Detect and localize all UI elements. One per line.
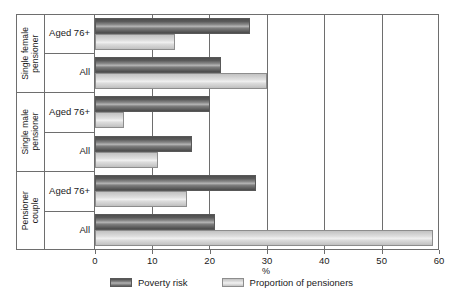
bar-poverty-risk-4 bbox=[95, 175, 256, 191]
bar-poverty-risk-2 bbox=[95, 96, 210, 112]
subcategory-separator-2 bbox=[44, 132, 94, 133]
bar-poverty-risk-1 bbox=[95, 57, 221, 73]
group-label-text: Single male pensioner bbox=[20, 109, 40, 155]
bar-poverty-risk-5 bbox=[95, 214, 215, 230]
category-label-male-all: All bbox=[44, 145, 90, 157]
legend-swatch-poverty-risk bbox=[110, 278, 132, 287]
x-tick-label-20: 20 bbox=[204, 255, 215, 266]
category-label-female-aged76: Aged 76+ bbox=[44, 27, 90, 39]
subcategory-separator-3 bbox=[44, 211, 94, 212]
bar-proportion-of-pensioners-3 bbox=[95, 152, 158, 168]
x-tick-label-60: 60 bbox=[434, 255, 445, 266]
group-label-text: Pensioner couple bbox=[20, 191, 40, 230]
legend-item-poverty-risk: Poverty risk bbox=[110, 277, 188, 288]
x-tick-60 bbox=[439, 250, 440, 254]
bar-proportion-of-pensioners-5 bbox=[95, 230, 433, 246]
x-tick-0 bbox=[95, 250, 96, 254]
x-tick-40 bbox=[324, 250, 325, 254]
bars-layer bbox=[95, 14, 439, 250]
category-label-couple-all: All bbox=[44, 224, 90, 236]
group-label-pensioner-couple: Pensioner couple bbox=[16, 171, 44, 250]
x-axis-title: % bbox=[262, 266, 270, 276]
category-label-male-aged76: Aged 76+ bbox=[44, 106, 90, 118]
group-label-text: Single female pensioner bbox=[20, 27, 40, 80]
x-tick-label-0: 0 bbox=[92, 255, 97, 266]
pensioner-poverty-bar-chart: Single female pensioner Single male pens… bbox=[0, 0, 463, 302]
x-tick-label-50: 50 bbox=[376, 255, 387, 266]
subcategory-separator-1 bbox=[44, 53, 94, 54]
bar-proportion-of-pensioners-1 bbox=[95, 73, 267, 89]
category-label-female-all: All bbox=[44, 66, 90, 78]
x-tick-label-40: 40 bbox=[319, 255, 330, 266]
x-tick-label-10: 10 bbox=[147, 255, 158, 266]
category-label-couple-aged76: Aged 76+ bbox=[44, 185, 90, 197]
bar-proportion-of-pensioners-4 bbox=[95, 191, 187, 207]
bar-poverty-risk-3 bbox=[95, 136, 192, 152]
x-tick-30 bbox=[267, 250, 268, 254]
x-tick-label-30: 30 bbox=[262, 255, 273, 266]
chart-legend: Poverty risk Proportion of pensioners bbox=[0, 277, 463, 288]
bar-proportion-of-pensioners-0 bbox=[95, 34, 175, 50]
x-tick-10 bbox=[152, 250, 153, 254]
group-label-single-male-pensioner: Single male pensioner bbox=[16, 92, 44, 171]
legend-label-poverty-risk: Poverty risk bbox=[138, 277, 188, 288]
legend-item-proportion-of-pensioners: Proportion of pensioners bbox=[222, 277, 354, 288]
legend-swatch-proportion-of-pensioners bbox=[222, 278, 244, 287]
bar-proportion-of-pensioners-2 bbox=[95, 112, 124, 128]
x-tick-20 bbox=[210, 250, 211, 254]
legend-label-proportion-of-pensioners: Proportion of pensioners bbox=[250, 277, 354, 288]
x-tick-50 bbox=[382, 250, 383, 254]
bar-poverty-risk-0 bbox=[95, 18, 250, 34]
group-label-single-female-pensioner: Single female pensioner bbox=[16, 14, 44, 92]
